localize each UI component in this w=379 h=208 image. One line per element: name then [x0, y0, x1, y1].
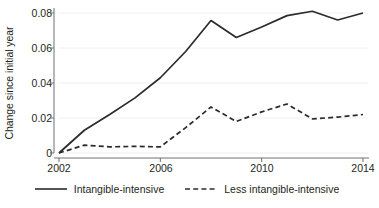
legend: Intangible-intensive Less intangible-int… — [0, 183, 373, 195]
data-series — [59, 11, 363, 153]
series-line-intangible-intensive — [59, 11, 363, 153]
axis-ticks — [50, 13, 363, 162]
legend-item-intangible-intensive[interactable]: Intangible-intensive — [34, 183, 164, 195]
gridlines — [59, 13, 368, 153]
series-line-less-intangible-intensive — [59, 104, 363, 153]
solid-line-swatch-icon — [34, 184, 68, 194]
legend-item-less-intangible-intensive[interactable]: Less intangible-intensive — [184, 183, 339, 195]
dashed-line-swatch-icon — [184, 184, 218, 194]
legend-label-intangible-intensive: Intangible-intensive — [74, 183, 164, 195]
legend-label-less-intangible-intensive: Less intangible-intensive — [224, 183, 339, 195]
